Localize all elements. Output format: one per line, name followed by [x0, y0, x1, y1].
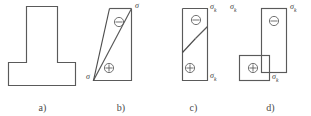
sigma-subscript: k [294, 7, 296, 13]
sigma-symbol: σ [135, 1, 139, 10]
sigma-bottom-right-c: σk [210, 72, 216, 82]
neutral-axis-line-c [183, 39, 196, 53]
plus-circle-icon [248, 63, 257, 72]
t-section-outline [9, 7, 76, 86]
sigma-bottom-left-b: σ [86, 73, 90, 81]
stress-diagram-c [157, 0, 230, 100]
caption-a: a) [0, 102, 85, 113]
sigma-symbol: σ [86, 72, 90, 81]
plus-circle-icon [104, 63, 113, 72]
sigma-bottom-right-d: σk [272, 73, 278, 83]
minus-circle-icon [191, 15, 200, 24]
panel-d: σk σk σk d) [230, 0, 311, 116]
compression-notch-c [196, 27, 208, 39]
minus-circle-icon [269, 16, 278, 25]
plus-circle-icon [185, 63, 194, 72]
sigma-top-left-d: σk [230, 3, 236, 13]
stress-outline-c [183, 9, 208, 81]
sigma-subscript: k [276, 77, 278, 83]
sigma-subscript: k [214, 76, 216, 82]
neutral-axis-line-b [94, 9, 110, 81]
sigma-subscript: k [234, 7, 236, 13]
sigma-top-right-c: σk [210, 3, 216, 13]
stress-outline-b [94, 9, 132, 81]
caption-b: b) [85, 102, 157, 113]
caption-c: c) [157, 102, 230, 113]
compression-rect-d [262, 9, 287, 73]
panel-b: σ σ b) [85, 0, 157, 116]
panel-c: σk σk c) [157, 0, 230, 116]
sigma-top-right-d: σk [290, 3, 296, 13]
stress-diagram-b [85, 0, 157, 100]
stress-diagram-d [230, 0, 311, 100]
sigma-subscript: k [214, 7, 216, 13]
sigma-top-right-b: σ [135, 2, 139, 10]
t-section-drawing [0, 0, 85, 100]
figure-container: a) σ σ b) [0, 0, 311, 116]
minus-circle-icon [114, 17, 123, 26]
panel-a: a) [0, 0, 85, 116]
caption-d: d) [230, 102, 311, 113]
